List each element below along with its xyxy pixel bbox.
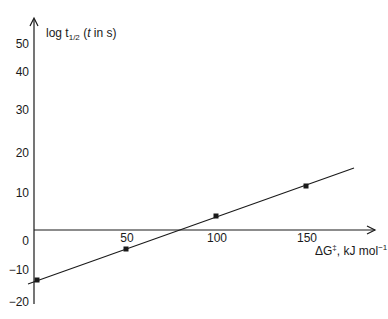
y-axis-title: log t1/2 (t in s) (46, 26, 117, 42)
y-tick-label: 30 (16, 103, 30, 117)
chart: log t1/2 (t in s) ΔG‡, kJ mol−1 50403020… (0, 0, 388, 319)
x-tick-labels: 50100150 (120, 231, 317, 245)
data-point-marker (35, 278, 40, 283)
data-point-marker (304, 184, 309, 189)
y-tick-label: 0 (22, 234, 29, 248)
y-tick-label: −20 (9, 295, 30, 309)
x-tick-label: 150 (297, 231, 317, 245)
y-tick-label: 50 (16, 37, 30, 51)
y-tick-labels: 50403020100−10−20 (9, 37, 30, 309)
x-tick-label: 100 (207, 231, 227, 245)
data-point-marker (124, 247, 129, 252)
y-tick-label: 40 (16, 65, 30, 79)
data-point-marker (214, 214, 219, 219)
y-tick-label: 20 (16, 146, 30, 160)
y-tick-label: −10 (9, 263, 30, 277)
x-axis-title: ΔG‡, kJ mol−1 (315, 243, 388, 258)
x-tick-label: 50 (120, 231, 134, 245)
y-tick-label: 10 (16, 186, 30, 200)
